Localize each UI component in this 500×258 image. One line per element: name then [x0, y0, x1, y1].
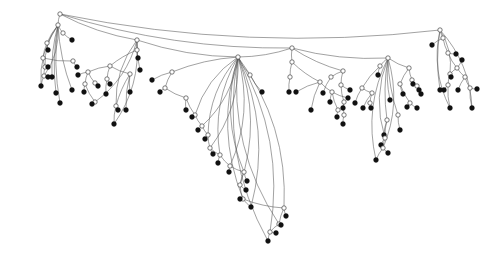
internal-node: [45, 41, 49, 45]
edges-layer: [41, 14, 477, 241]
long-edge: [228, 57, 243, 199]
internal-node: [58, 12, 62, 16]
internal-node: [135, 38, 139, 42]
leaf-node: [386, 151, 391, 156]
leaf-node: [401, 92, 406, 97]
edge: [88, 66, 110, 72]
leaf-node: [346, 96, 351, 101]
internal-node: [282, 206, 286, 210]
internal-node: [360, 86, 364, 90]
internal-node: [61, 31, 65, 35]
leaf-node: [361, 106, 366, 111]
leaf-node: [227, 170, 232, 175]
leaf-node: [348, 88, 353, 93]
leaf-node: [184, 108, 189, 113]
internal-node: [463, 75, 467, 79]
leaf-node: [274, 231, 279, 236]
internal-node: [342, 100, 346, 104]
internal-node: [381, 146, 385, 150]
leaf-node: [475, 87, 480, 92]
leaf-node: [39, 84, 44, 89]
internal-node: [268, 230, 272, 234]
leaf-node: [82, 90, 87, 95]
internal-node: [228, 164, 232, 168]
internal-node: [71, 59, 75, 63]
edge: [292, 62, 320, 82]
edge: [165, 72, 172, 88]
internal-node: [86, 70, 90, 74]
leaf-node: [279, 223, 284, 228]
edge: [60, 14, 137, 40]
leaf-node: [376, 73, 381, 78]
leaf-node: [138, 68, 143, 73]
edge: [152, 72, 172, 80]
internal-node: [318, 80, 322, 84]
internal-node: [398, 82, 402, 86]
leaf-node: [96, 84, 101, 89]
internal-node: [407, 66, 411, 70]
leaf-node: [136, 56, 141, 61]
internal-node: [163, 86, 167, 90]
edge: [186, 98, 195, 115]
leaf-node: [46, 65, 51, 70]
edge: [292, 48, 343, 71]
internal-node: [200, 124, 204, 128]
edge: [60, 14, 292, 48]
leaf-node: [341, 122, 346, 127]
internal-node: [236, 55, 240, 59]
internal-node: [370, 91, 374, 95]
internal-node: [184, 96, 188, 100]
internal-node: [341, 69, 345, 73]
internal-node: [378, 64, 382, 68]
leaf-node: [335, 115, 340, 120]
leaf-node: [448, 106, 453, 111]
internal-node: [446, 83, 450, 87]
leaf-node: [438, 88, 443, 93]
leaf-node: [211, 152, 216, 157]
internal-node: [468, 86, 472, 90]
internal-node: [446, 51, 450, 55]
internal-node: [170, 70, 174, 74]
leaf-node: [456, 88, 461, 93]
internal-node: [438, 28, 442, 32]
leaf-node: [54, 91, 59, 96]
leaf-node: [196, 128, 201, 133]
leaf-node: [260, 90, 265, 95]
edge: [438, 30, 440, 90]
leaf-node: [341, 106, 346, 111]
edge: [116, 74, 130, 106]
leaf-node: [216, 161, 221, 166]
leaf-node: [284, 214, 289, 219]
edge: [311, 82, 320, 110]
long-edge: [379, 58, 388, 138]
leaf-node: [405, 105, 410, 110]
internal-node: [408, 101, 412, 105]
edge: [292, 48, 388, 58]
leaf-node: [454, 52, 459, 57]
internal-node: [339, 83, 343, 87]
internal-node: [336, 108, 340, 112]
internal-node: [329, 75, 333, 79]
leaf-node: [76, 73, 81, 78]
leaf-node: [70, 38, 75, 43]
internal-node: [290, 46, 294, 50]
internal-node: [108, 64, 112, 68]
leaf-node: [309, 108, 314, 113]
edge: [137, 40, 238, 57]
leaf-node: [419, 92, 424, 97]
long-edge: [233, 57, 268, 241]
leaf-node: [449, 75, 454, 80]
edge: [388, 58, 409, 68]
leaf-node: [128, 90, 133, 95]
internal-node: [41, 56, 45, 60]
internal-node: [368, 101, 372, 105]
leaf-node: [353, 101, 358, 106]
leaf-node: [108, 82, 113, 87]
leaf-node: [124, 108, 129, 113]
leaf-node: [430, 43, 435, 48]
leaf-node: [203, 137, 208, 142]
leaf-node: [321, 91, 326, 96]
tree-diagram: [0, 0, 500, 258]
edge: [85, 84, 95, 102]
internal-node: [135, 48, 139, 52]
